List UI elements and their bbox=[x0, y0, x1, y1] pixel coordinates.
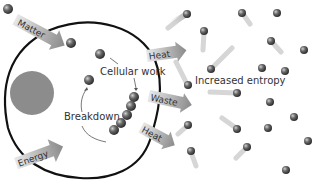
sphere bbox=[95, 49, 105, 59]
chain-sphere bbox=[109, 125, 119, 135]
heat-top-label: Heat bbox=[148, 49, 171, 62]
matter-sphere bbox=[3, 4, 13, 14]
increased-entropy-label: Increased entropy bbox=[195, 75, 286, 86]
cellular-work-down-arrow bbox=[134, 78, 136, 88]
sphere bbox=[84, 75, 94, 85]
chain-sphere bbox=[122, 110, 132, 120]
matter-sphere-inside bbox=[66, 38, 76, 48]
chain-sphere bbox=[126, 101, 136, 111]
entropy-diagram: Matter Energy Cellular work Breakdown He… bbox=[0, 0, 317, 187]
waste-out-arrow: Waste bbox=[147, 86, 194, 115]
breakdown-up-arrow bbox=[81, 90, 86, 112]
diagram-canvas: Matter Energy Cellular work Breakdown He… bbox=[0, 0, 317, 187]
breakdown-curve bbox=[82, 126, 106, 142]
energy-arrow: Energy bbox=[12, 135, 67, 175]
breakdown-label: Breakdown bbox=[64, 111, 120, 122]
chain-sphere bbox=[129, 92, 139, 102]
entropy-particles bbox=[166, 9, 312, 174]
cellular-work-label: Cellular work bbox=[100, 66, 166, 77]
nucleus bbox=[10, 71, 54, 115]
matter-label: Matter bbox=[16, 18, 47, 41]
heat-out-arrow-top: Heat bbox=[145, 40, 187, 65]
matter-arrow: Matter bbox=[10, 10, 70, 56]
heat-out-arrow-bottom: Heat bbox=[136, 118, 179, 153]
waste-label: Waste bbox=[149, 92, 179, 108]
cellular-work-arrow bbox=[110, 58, 118, 64]
